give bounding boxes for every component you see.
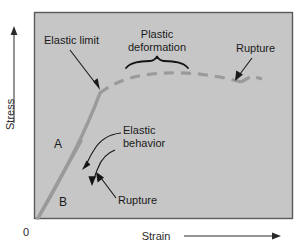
x-axis-label: Strain — [142, 230, 171, 242]
elastic-behavior-label-line1: Elastic — [123, 124, 156, 136]
curve-a-label: A — [54, 137, 62, 151]
origin-label: 0 — [23, 226, 29, 238]
rupture-top-label: Rupture — [236, 42, 275, 54]
y-axis-label: Stress — [4, 98, 16, 130]
stress-strain-figure: Stress Strain 0 Elastic limit Plastic de… — [0, 0, 307, 252]
curve-b-label: B — [59, 195, 67, 209]
plastic-deformation-label-line1: Plastic — [141, 28, 174, 40]
plastic-deformation-label-line2: deformation — [128, 41, 186, 53]
elastic-limit-label: Elastic limit — [44, 34, 99, 46]
rupture-bottom-label: Rupture — [118, 194, 157, 206]
elastic-behavior-label-line2: behavior — [123, 137, 166, 149]
stress-strain-diagram: Stress Strain 0 Elastic limit Plastic de… — [0, 0, 307, 252]
